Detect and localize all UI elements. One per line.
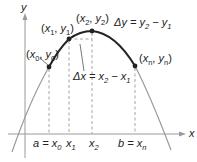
point-p1 — [67, 37, 72, 42]
arc-length-diagram: y x (x0, y0) (x1, y1) (x2, y2) (xn, yn) … — [0, 0, 197, 162]
y-axis-label: y — [20, 1, 28, 13]
tick-label-a: a = x0 — [33, 137, 62, 152]
label-p2: (x2, y2) — [76, 12, 109, 27]
tick-label-x1: x1 — [65, 137, 76, 152]
delta-x-annotation: Δx = x2 − x1 — [72, 70, 130, 85]
point-p2 — [90, 29, 95, 34]
x-axis-label: x — [188, 127, 195, 139]
label-pn: (xn, yn) — [139, 52, 172, 67]
tick-label-b: b = xn — [118, 137, 146, 152]
x-axis-arrow-icon — [179, 132, 186, 137]
tick-label-x2: x2 — [88, 137, 100, 152]
point-pn — [133, 64, 138, 69]
point-p0 — [47, 65, 52, 70]
delta-y-annotation: Δy = y2 − y1 — [113, 16, 171, 31]
leader-delta-x — [80, 44, 84, 71]
y-axis-arrow-icon — [23, 13, 28, 20]
label-p1: (x1, y1) — [41, 22, 74, 37]
